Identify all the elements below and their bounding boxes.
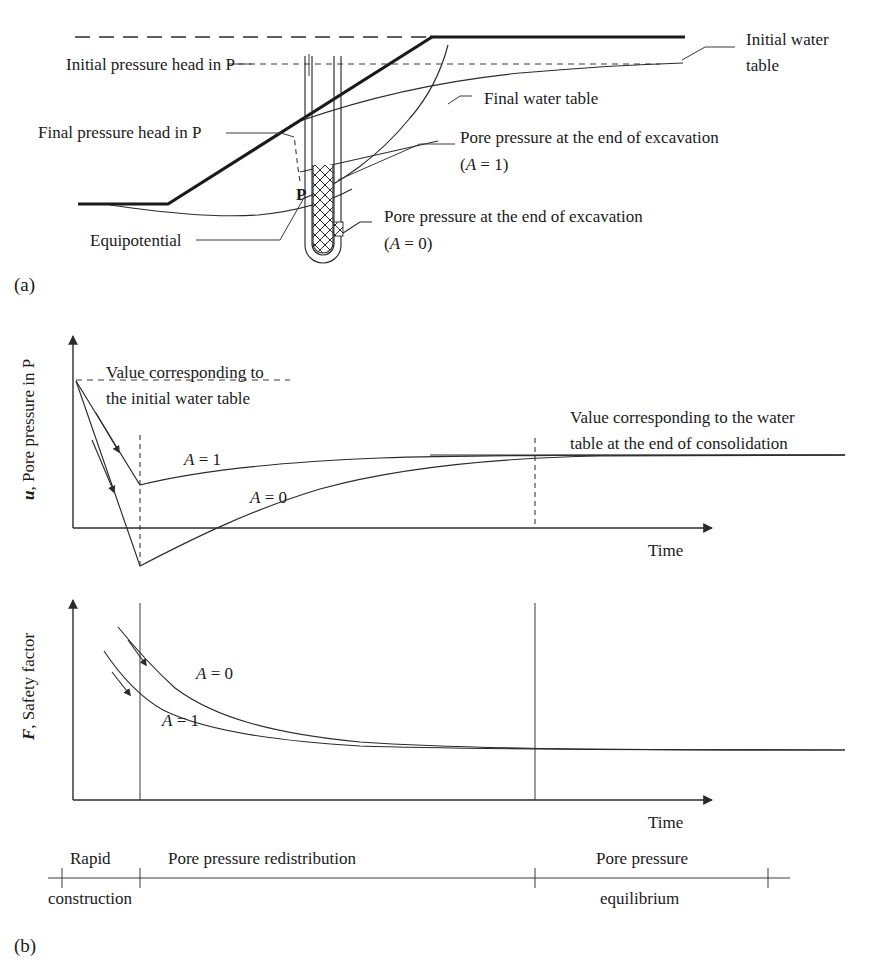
label-initial-water-table-line1: Initial water (746, 30, 829, 49)
timeline-stage1-line1: Rapid (70, 849, 111, 868)
figure-canvas: Initial pressure head in P Final pressur… (0, 0, 894, 977)
chart-u-annotation-final-line1: Value corresponding to the water (570, 408, 795, 427)
chart-f-flow-arrow-lower (112, 672, 130, 695)
figure-root: Initial pressure head in P Final pressur… (0, 0, 894, 977)
initial-water-table-leader (682, 47, 735, 60)
chart-u-x-axis-label: Time (648, 541, 683, 560)
timeline-stage1-line2: construction (48, 889, 133, 908)
label-piezometer-point-p: P (296, 185, 306, 204)
timeline-stage3-line2: equilibrium (600, 889, 679, 908)
label-initial-water-table-line2: table (746, 56, 779, 75)
panel-b-key: (b) (14, 935, 36, 957)
chart-u-y-axis-label: u, Pore pressure in P (19, 359, 38, 500)
label-final-pressure-head: Final pressure head in P (38, 123, 201, 142)
chart-f-y-axis-label: F, Safety factor (19, 633, 38, 741)
chart-f-x-axis-label: Time (648, 813, 683, 832)
equipotential-leader (196, 196, 305, 240)
label-pore-pressure-a0-line1: Pore pressure at the end of excavation (384, 207, 643, 226)
pore-pressure-a0-leader (340, 222, 372, 235)
chart-f-flow-arrow-upper (128, 640, 146, 665)
pore-pressure-a1-leader (338, 144, 455, 180)
chart-u-flow-arrow-lower (92, 440, 114, 492)
panel-a-key: (a) (14, 274, 35, 296)
final-pressure-head-dashed (294, 137, 300, 181)
chart-u-flow-arrow-upper (96, 413, 119, 452)
timeline-stage3-line1: Pore pressure (596, 849, 688, 868)
label-pore-pressure-a1-line2: (A = 1) (460, 155, 508, 174)
final-water-table-leader (448, 96, 472, 104)
timeline-stage2: Pore pressure redistribution (168, 849, 356, 868)
chart-f-series-a0 (118, 627, 845, 750)
label-initial-pressure-head: Initial pressure head in P (66, 55, 235, 74)
chart-u-series-label-a0: A = 0 (249, 488, 287, 507)
piezometer-tip-marker (334, 222, 343, 236)
chart-u-annotation-final-line2: table at the end of consolidation (570, 434, 788, 453)
chart-u-annotation-initial-line1: Value corresponding to (106, 363, 264, 382)
label-equipotential: Equipotential (90, 231, 182, 250)
final-pressure-head-leader (226, 133, 294, 137)
label-pore-pressure-a1-line1: Pore pressure at the end of excavation (460, 128, 719, 147)
label-final-water-table: Final water table (484, 89, 598, 108)
piezometer-filter-hatch (313, 165, 333, 253)
chart-f-series-label-a0: A = 0 (195, 664, 233, 683)
label-pore-pressure-a0-line2: (A = 0) (384, 234, 432, 253)
chart-f-axes (73, 600, 845, 800)
chart-f-series-label-a1: A = 1 (161, 711, 199, 730)
chart-u-annotation-initial-line2: the initial water table (106, 389, 250, 408)
chart-u-series-label-a1: A = 1 (183, 450, 221, 469)
timeline-bar (48, 868, 790, 888)
